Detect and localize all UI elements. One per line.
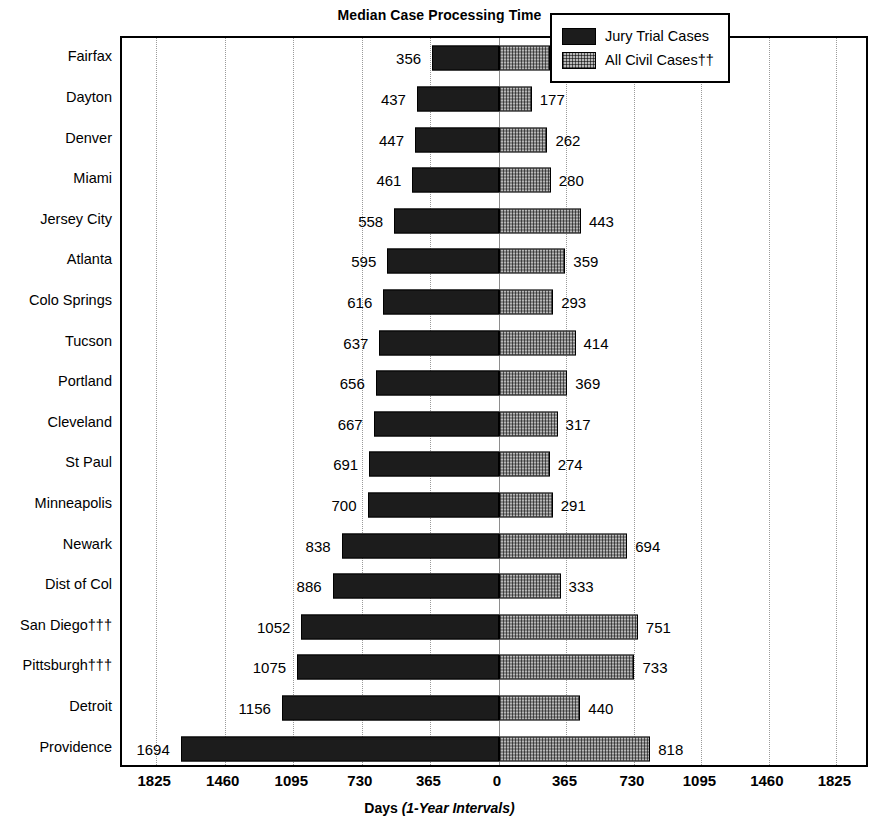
category-label-denver: Denver	[65, 130, 112, 145]
bar-row: 691274	[122, 444, 866, 485]
x-tick-L-730: 730	[347, 772, 372, 789]
bar-jury-trial	[415, 127, 499, 152]
bar-all-civil	[499, 736, 650, 761]
legend-item: Jury Trial Cases	[562, 24, 718, 48]
bar-jury-trial	[383, 289, 499, 314]
category-label-portland: Portland	[58, 374, 112, 389]
bar-all-civil	[499, 411, 558, 436]
bar-all-civil	[499, 330, 576, 355]
bar-jury-trial	[333, 574, 499, 599]
value-label-all-civil: 694	[635, 538, 660, 553]
bar-row: 1052751	[122, 607, 866, 648]
x-tick-R-1095: 1095	[683, 772, 716, 789]
value-label-jury-trial: 356	[396, 51, 421, 66]
bar-row: 700291	[122, 485, 866, 526]
bar-jury-trial	[301, 614, 499, 639]
value-label-all-civil: 440	[588, 701, 613, 716]
value-label-all-civil: 280	[559, 173, 584, 188]
bar-row: 886333	[122, 566, 866, 607]
value-label-all-civil: 414	[584, 335, 609, 350]
category-label-tucson: Tucson	[65, 333, 112, 348]
value-label-all-civil: 291	[561, 498, 586, 513]
x-axis-tick-labels: 1825146010957303650365730109514601825	[0, 772, 879, 796]
value-label-all-civil: 751	[646, 619, 671, 634]
plot-area: 3562754371774472624612805584435953596162…	[120, 36, 868, 767]
bar-jury-trial	[432, 46, 499, 71]
value-label-all-civil: 333	[569, 579, 594, 594]
bar-all-civil	[499, 289, 553, 314]
bar-row: 1694818	[122, 728, 866, 767]
bar-all-civil	[499, 168, 551, 193]
category-label-detroit: Detroit	[69, 699, 112, 714]
x-axis-title: Days (1-Year Intervals)	[0, 800, 879, 816]
bar-jury-trial	[282, 696, 499, 721]
value-label-jury-trial: 886	[297, 579, 322, 594]
bar-all-civil	[499, 696, 580, 721]
bar-jury-trial	[376, 371, 499, 396]
category-label-dayton: Dayton	[66, 90, 112, 105]
bar-all-civil	[499, 655, 634, 680]
category-label-miami: Miami	[73, 171, 112, 186]
category-axis: FairfaxDaytonDenverMiamiJersey CityAtlan…	[0, 36, 120, 767]
bar-row: 447262	[122, 119, 866, 160]
value-label-jury-trial: 700	[331, 498, 356, 513]
value-label-all-civil: 317	[566, 416, 591, 431]
bar-all-civil	[499, 208, 581, 233]
value-label-jury-trial: 838	[306, 538, 331, 553]
value-label-jury-trial: 595	[351, 254, 376, 269]
x-tick-L-365: 365	[416, 772, 441, 789]
legend-swatch-solid	[562, 28, 596, 45]
value-label-all-civil: 177	[540, 91, 565, 106]
bar-row: 637414	[122, 322, 866, 363]
bar-all-civil	[499, 533, 627, 558]
value-label-jury-trial: 667	[338, 416, 363, 431]
bar-row: 838694	[122, 525, 866, 566]
x-tick-R-1825: 1825	[818, 772, 851, 789]
bar-row: 356275	[122, 38, 866, 79]
bar-row: 616293	[122, 282, 866, 323]
x-tick-L-1095: 1095	[275, 772, 308, 789]
bar-jury-trial	[417, 86, 499, 111]
value-label-jury-trial: 691	[333, 457, 358, 472]
category-label-st-paul: St Paul	[65, 455, 112, 470]
x-axis-title-main: Days	[364, 800, 397, 816]
bar-jury-trial	[369, 452, 499, 477]
category-label-minneapolis: Minneapolis	[35, 496, 112, 511]
x-tick-R-730: 730	[619, 772, 644, 789]
x-tick-R-1460: 1460	[750, 772, 783, 789]
bar-row: 595359	[122, 241, 866, 282]
category-label-jersey-city: Jersey City	[40, 212, 112, 227]
category-label-san-diego: San Diego†††	[20, 618, 112, 633]
value-label-all-civil: 274	[558, 457, 583, 472]
value-label-jury-trial: 637	[343, 335, 368, 350]
category-label-fairfax: Fairfax	[68, 49, 112, 64]
x-tick-R-365: 365	[552, 772, 577, 789]
bar-jury-trial	[342, 533, 499, 558]
legend-label: Jury Trial Cases	[605, 28, 709, 44]
bar-row: 656369	[122, 363, 866, 404]
category-label-pittsburgh: Pittsburgh†††	[23, 658, 112, 673]
bar-row: 461280	[122, 160, 866, 201]
category-label-newark: Newark	[63, 536, 112, 551]
x-axis-title-note: (1-Year Intervals)	[402, 800, 515, 816]
bar-jury-trial	[181, 736, 499, 761]
bar-row: 1075733	[122, 647, 866, 688]
value-label-all-civil: 443	[589, 213, 614, 228]
value-label-jury-trial: 461	[376, 173, 401, 188]
legend-swatch-stipple	[562, 52, 596, 69]
bar-all-civil	[499, 46, 550, 71]
value-label-all-civil: 293	[561, 294, 586, 309]
chart-legend: Jury Trial CasesAll Civil Cases††	[550, 13, 730, 83]
value-label-jury-trial: 1075	[253, 660, 286, 675]
value-label-jury-trial: 656	[340, 376, 365, 391]
bar-jury-trial	[394, 208, 499, 233]
bar-all-civil	[499, 574, 561, 599]
bar-jury-trial	[379, 330, 499, 355]
x-tick-C-0: 0	[493, 772, 501, 789]
bar-row: 667317	[122, 404, 866, 445]
value-label-jury-trial: 1694	[136, 741, 169, 756]
bar-all-civil	[499, 127, 547, 152]
bar-jury-trial	[297, 655, 499, 680]
category-label-cleveland: Cleveland	[48, 415, 113, 430]
bar-row: 558443	[122, 200, 866, 241]
